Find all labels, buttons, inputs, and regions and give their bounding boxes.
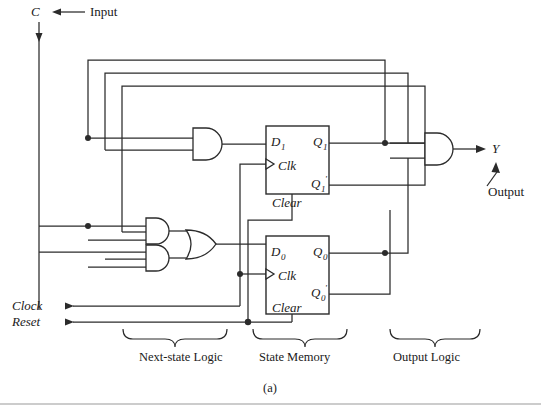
junction-reset-clear	[245, 319, 251, 325]
wire-q0-out	[329, 158, 408, 253]
wire-clock-to-ff1-clk	[240, 164, 266, 306]
flipflop-1-d-sub: 1	[281, 142, 286, 152]
clock-label: Clock	[12, 298, 43, 313]
or-gate-d0	[186, 230, 216, 259]
flipflop-1-q-sub: 1	[323, 142, 328, 152]
junction-clock-split	[237, 271, 243, 277]
input-annotation-arrowhead	[52, 9, 61, 16]
output-signal-label: Y	[492, 141, 501, 156]
flipflop-0-d-label: D	[270, 244, 281, 259]
flipflop-0-clear-label: Clear	[272, 300, 303, 315]
reset-arrowhead	[65, 319, 74, 326]
brace-next-state-logic	[123, 329, 227, 347]
flipflop-1-d-label: D	[270, 134, 281, 149]
section-label-output-logic: Output Logic	[393, 350, 460, 364]
junction-q1-feedback	[382, 140, 388, 146]
section-label-state-memory: State Memory	[259, 350, 331, 364]
clock-arrowhead	[65, 303, 74, 310]
wire-q1p-out	[329, 158, 425, 185]
input-word-label: Input	[90, 4, 118, 19]
junction-c-and2	[85, 223, 91, 229]
junction-c-and1	[85, 135, 91, 141]
flipflop-0-qn-label: Q	[311, 285, 321, 300]
y-output-arrowhead	[476, 145, 486, 153]
flipflop-1-qn-label: Q	[311, 176, 321, 191]
input-signal-label: C	[31, 4, 40, 19]
flipflop-0-d-sub: 0	[281, 252, 286, 262]
flipflop-1-clear-label: Clear	[272, 195, 303, 210]
section-label-next-state-logic: Next-state Logic	[139, 350, 223, 364]
wire-q0p-out	[329, 210, 390, 294]
and-gate-d1	[193, 128, 222, 160]
brace-output-logic	[390, 329, 480, 347]
sequential-circuit-diagram: C Input D 1 Q 1 Clk Q 1 ' Clear	[0, 0, 541, 409]
flipflop-0-q-sub: 0	[323, 252, 328, 262]
c-bus-arrowhead	[36, 33, 43, 42]
flipflop-1-clk-label: Clk	[278, 158, 296, 173]
flipflop-0-qn-sub: 0	[321, 293, 326, 303]
flipflop-1-q-label: Q	[313, 134, 323, 149]
and-gate-lower-d0	[146, 245, 169, 271]
flipflop-1-qn-sub: 1	[321, 184, 326, 194]
figure-caption: (a)	[263, 381, 277, 395]
output-word-label: Output	[488, 184, 525, 199]
flipflop-0-clk-label: Clk	[278, 268, 296, 283]
and-gate-upper-d0	[146, 218, 169, 244]
brace-state-memory	[253, 329, 347, 347]
junction-q0-output-gate	[382, 250, 388, 256]
and-gate-output-y	[425, 133, 453, 165]
flipflop-0-q-label: Q	[313, 244, 323, 259]
output-annotation-arrowhead	[492, 162, 501, 173]
reset-label: Reset	[11, 314, 41, 329]
